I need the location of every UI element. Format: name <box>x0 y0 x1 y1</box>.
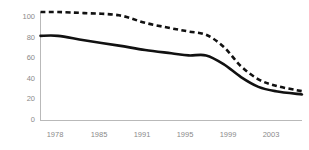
y-tick-label-100: 100 <box>22 12 35 21</box>
x-tick-label-1985: 1985 <box>91 130 108 139</box>
x-tick-label-1995: 1995 <box>177 130 194 139</box>
y-axis-tick-labels: 100 80 60 40 20 0 <box>22 12 35 124</box>
y-tick-label-0: 0 <box>31 115 35 124</box>
y-tick-label-80: 80 <box>27 33 35 42</box>
y-tick-label-20: 20 <box>27 94 35 103</box>
y-tick-label-40: 40 <box>27 74 35 83</box>
x-tick-label-2003: 2003 <box>263 130 280 139</box>
series-line-dashed <box>41 12 303 91</box>
x-tick-label-1991: 1991 <box>134 130 151 139</box>
series-line-solid <box>41 36 303 95</box>
y-tick-label-60: 60 <box>27 53 35 62</box>
x-axis-tick-labels: 1978 1985 1991 1995 1999 2003 <box>47 130 280 139</box>
chart-canvas: 100 80 60 40 20 0 1978 1985 1991 1995 19… <box>0 0 309 150</box>
line-chart-figure: 100 80 60 40 20 0 1978 1985 1991 1995 19… <box>0 0 309 150</box>
x-tick-label-1999: 1999 <box>220 130 237 139</box>
x-tick-label-1978: 1978 <box>47 130 64 139</box>
